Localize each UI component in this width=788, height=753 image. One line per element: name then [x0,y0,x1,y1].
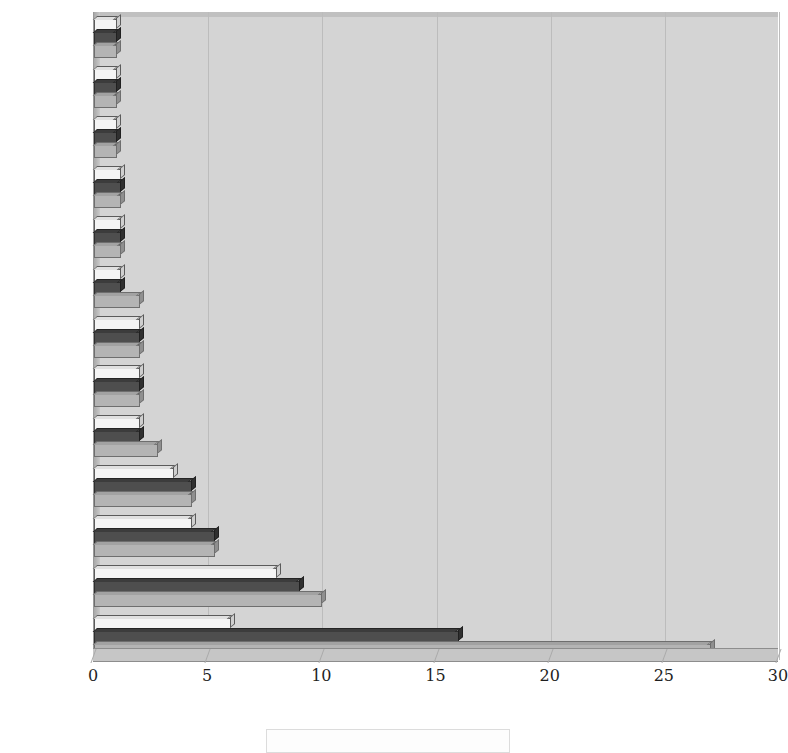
bar-series-3-1 [94,95,117,108]
bar-top-face [93,528,217,532]
bar-top-face [93,142,119,146]
bar-top-face [93,541,217,545]
bar-top-face [93,279,123,283]
gridline [322,12,323,660]
plot-floor [93,648,778,662]
bar-side-face [116,40,121,55]
bar-top-face [93,92,119,96]
x-tick-label: 25 [654,666,674,685]
bar-side-face [230,612,235,627]
bar-series-3-9 [94,494,192,507]
bar-series-3-10 [94,544,215,557]
bar-side-face [116,90,121,105]
bar-side-face [120,190,125,205]
bar-top-face [93,292,141,296]
gridline [779,12,780,660]
bar-top-face [93,16,119,20]
bar-top-face [93,641,712,645]
bar-top-face [93,378,141,382]
bar-top-face [93,192,123,196]
bar-top-face [93,329,141,333]
bar-top-face [93,242,123,246]
bar-top-face [93,342,141,346]
floor-tick [433,649,439,663]
bar-top-face [93,491,194,495]
bar-series-3-6 [94,345,140,358]
floor-tick [775,649,781,663]
bar-top-face [93,266,123,270]
bar-top-face [93,615,233,619]
bar-side-face [139,426,144,441]
bar-top-face [93,42,119,46]
bar-series-3-8 [94,444,158,457]
bar-top-face [93,465,176,469]
bar-top-face [93,415,141,419]
floor-tick [319,649,325,663]
bar-top-face [93,216,123,220]
bar-top-face [93,66,119,70]
x-tick-label: 10 [311,666,331,685]
bar-series-3-11 [94,594,322,607]
bar-top-face [93,441,160,445]
bar-top-face [93,179,123,183]
bar-side-face [120,277,125,292]
bar-side-face [120,240,125,255]
x-tick-label: 5 [202,666,212,685]
gridline [208,12,209,660]
bar-top-face [93,166,123,170]
bar-side-face [321,589,326,604]
bar-top-face [93,29,119,33]
bar-series-3-2 [94,145,117,158]
bar-top-face [93,129,119,133]
bar-top-face [93,428,141,432]
bar-top-face [93,229,123,233]
bar-series-3-7 [94,394,140,407]
bar-top-face [93,591,324,595]
floor-tick [90,649,96,663]
x-tick-label: 20 [539,666,559,685]
bar-top-face [93,365,141,369]
bar-top-face [93,515,194,519]
gridline [665,12,666,660]
gridline [437,12,438,660]
bar-side-face [458,625,463,640]
bar-side-face [116,140,121,155]
bar-side-face [191,489,196,504]
bar-side-face [139,389,144,404]
floor-tick [205,649,211,663]
bar-top-face [93,565,278,569]
bar-top-face [93,391,141,395]
bar-side-face [214,539,219,554]
bar-top-face [93,578,301,582]
bar-series-3-3 [94,195,121,208]
bar-top-face [93,316,141,320]
x-tick-label: 30 [768,666,788,685]
legend-box [266,729,510,753]
floor-tick [661,649,667,663]
plot-area [93,12,778,660]
bar-side-face [191,513,196,528]
floor-tick [547,649,553,663]
bar-top-face [93,478,194,482]
bar-series-3-0 [94,45,117,58]
bar-series-3-5 [94,295,140,308]
x-axis-tick-labels: 051015202530 [0,666,777,692]
bar-side-face [157,439,162,454]
x-tick-label: 0 [88,666,98,685]
bar-top-face [93,79,119,83]
gridline [551,12,552,660]
bar-side-face [173,463,178,478]
x-tick-label: 15 [425,666,445,685]
bar-top-face [93,628,461,632]
bar-top-face [93,116,119,120]
bar-series-3-4 [94,245,121,258]
